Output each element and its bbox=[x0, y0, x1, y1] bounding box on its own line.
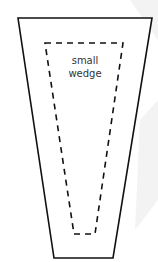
label-line-1: small bbox=[60, 54, 110, 67]
label-line-2: wedge bbox=[60, 67, 110, 80]
wedge-diagram bbox=[0, 0, 158, 262]
wedge-label: small wedge bbox=[60, 54, 110, 80]
